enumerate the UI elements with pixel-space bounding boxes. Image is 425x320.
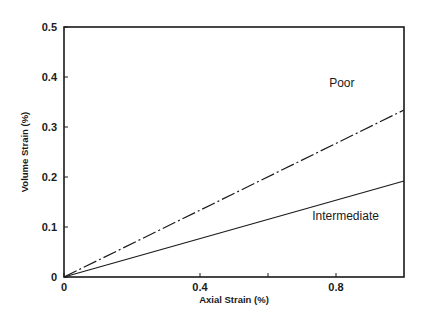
y-axis-title: Volume Strain (%) — [19, 112, 30, 193]
y-tick-label: 0.5 — [42, 21, 57, 33]
plot-frame — [64, 27, 404, 277]
x-tick-label: 0 — [61, 281, 67, 293]
annotation-intermediate: Intermediate — [312, 209, 379, 223]
series-line-poor — [64, 110, 404, 277]
y-tick-label: 0.3 — [42, 121, 57, 133]
x-tick-label: 0.8 — [328, 281, 343, 293]
x-axis: 00.40.8 — [61, 273, 344, 293]
annotation-poor: Poor — [329, 76, 354, 90]
y-tick-label: 0.4 — [42, 71, 58, 83]
plot-border — [64, 27, 404, 277]
y-tick-label: 0 — [51, 271, 57, 283]
y-tick-label: 0.2 — [42, 171, 57, 183]
y-tick-label: 0.1 — [42, 221, 57, 233]
x-tick-label: 0.4 — [192, 281, 208, 293]
x-axis-title: Axial Strain (%) — [199, 294, 269, 305]
annotations: PoorIntermediate — [312, 76, 379, 223]
chart: 00.10.20.30.40.5 00.40.8 PoorIntermediat… — [0, 0, 425, 320]
series-lines — [64, 110, 404, 277]
series-line-intermediate — [64, 181, 404, 277]
